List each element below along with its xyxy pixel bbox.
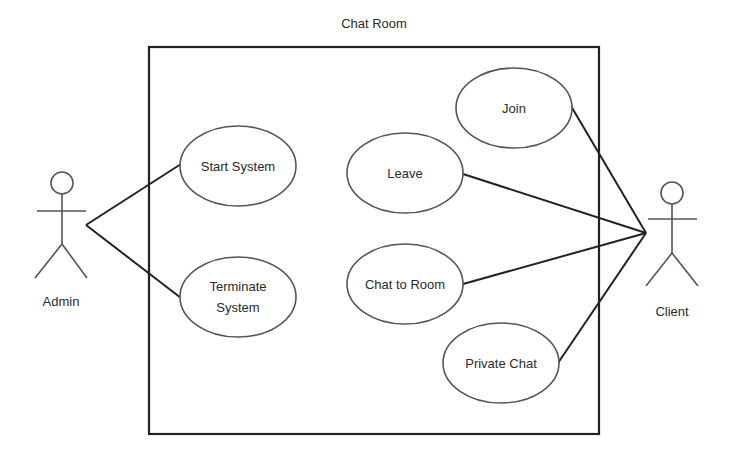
- use-case-start-system[interactable]: Start System: [180, 126, 296, 206]
- actor-client[interactable]: Client: [646, 182, 698, 319]
- use-case-label: Chat to Room: [365, 277, 445, 292]
- stick-figure-icon: [646, 182, 698, 286]
- use-case-private-chat[interactable]: Private Chat: [443, 323, 559, 403]
- use-case-label-line-2: System: [216, 300, 259, 315]
- use-case-terminate-system[interactable]: Terminate System: [180, 257, 296, 337]
- system-title: Chat Room: [341, 16, 407, 31]
- use-case-ellipse: [180, 257, 296, 337]
- association-client-leave: [463, 174, 646, 233]
- use-case-join[interactable]: Join: [456, 68, 572, 148]
- use-case-chat-to-room[interactable]: Chat to Room: [347, 244, 463, 324]
- use-case-label: Join: [502, 101, 526, 116]
- actor-label: Admin: [43, 294, 80, 309]
- use-case-label-line-1: Terminate: [209, 279, 266, 294]
- association-client-join: [571, 106, 646, 233]
- use-case-label: Private Chat: [465, 356, 537, 371]
- actor-label: Client: [655, 304, 689, 319]
- stick-figure-icon: [35, 172, 87, 278]
- actor-admin[interactable]: Admin: [35, 172, 87, 309]
- association-admin-terminate-system: [86, 225, 181, 298]
- association-client-chat-to-room: [463, 233, 646, 284]
- association-client-private-chat: [558, 233, 646, 363]
- use-case-leave[interactable]: Leave: [347, 133, 463, 213]
- association-admin-start-system: [86, 164, 181, 225]
- use-case-label: Leave: [387, 166, 422, 181]
- use-case-diagram: Chat Room Start System Terminate System …: [0, 0, 731, 453]
- use-case-label: Start System: [201, 159, 275, 174]
